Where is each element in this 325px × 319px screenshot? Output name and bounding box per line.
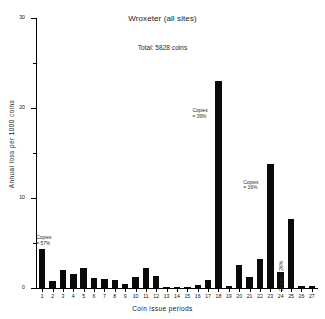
bar-period-19 <box>226 286 232 288</box>
copies-period-23-annotation: Copies = 16% <box>243 180 258 191</box>
x-tick-8 <box>115 288 116 292</box>
x-tick-26 <box>301 288 302 292</box>
bar-period-9 <box>122 284 128 288</box>
y-tick-label-0: 0 <box>3 285 25 290</box>
bar-period-12 <box>153 276 159 288</box>
x-tick-18 <box>218 288 219 292</box>
bar-period-22 <box>257 259 263 288</box>
bar-period-27 <box>309 286 315 288</box>
y-axis-title: Annual loss per 1000 coins <box>8 59 16 229</box>
x-tick-label-27: 27 <box>305 293 319 299</box>
bar-period-18 <box>215 81 221 288</box>
y-tick-label-10: 10 <box>3 195 25 200</box>
bar-period-7 <box>101 279 107 288</box>
x-tick-17 <box>208 288 209 292</box>
x-tick-16 <box>198 288 199 292</box>
bar-period-21 <box>246 277 252 288</box>
x-tick-15 <box>187 288 188 292</box>
x-tick-21 <box>250 288 251 292</box>
copies-period-24-annotation: Copies = 26% <box>280 261 286 292</box>
bar-period-16 <box>195 285 201 288</box>
x-tick-14 <box>177 288 178 292</box>
x-tick-25 <box>291 288 292 292</box>
bar-period-14 <box>174 287 180 288</box>
bars-layer <box>36 18 318 288</box>
x-tick-1 <box>42 288 43 292</box>
x-tick-7 <box>104 288 105 292</box>
x-tick-20 <box>239 288 240 292</box>
bar-period-25 <box>288 219 294 288</box>
bar-period-11 <box>143 268 149 288</box>
x-tick-19 <box>229 288 230 292</box>
bar-period-1 <box>39 249 45 288</box>
x-tick-23 <box>270 288 271 292</box>
chart-container: Wroxeter (all sites) Total: 5828 coins A… <box>0 0 325 319</box>
x-tick-4 <box>73 288 74 292</box>
x-tick-2 <box>53 288 54 292</box>
x-tick-5 <box>84 288 85 292</box>
x-tick-27 <box>312 288 313 292</box>
bar-period-3 <box>60 270 66 288</box>
bar-period-15 <box>184 287 190 288</box>
bar-period-10 <box>132 277 138 288</box>
x-tick-6 <box>94 288 95 292</box>
copies-period-1-annotation: Copies = 57% <box>36 235 51 246</box>
bar-period-2 <box>49 281 55 288</box>
bar-period-4 <box>70 274 76 288</box>
y-tick-0 <box>31 288 36 289</box>
bar-period-20 <box>236 265 242 288</box>
bar-period-8 <box>112 280 118 288</box>
x-tick-22 <box>260 288 261 292</box>
bar-period-6 <box>91 278 97 288</box>
y-tick-label-30: 30 <box>3 15 25 20</box>
x-tick-10 <box>136 288 137 292</box>
bar-period-13 <box>163 287 169 288</box>
x-tick-11 <box>146 288 147 292</box>
bar-period-26 <box>298 286 304 288</box>
x-tick-13 <box>167 288 168 292</box>
y-tick-label-20: 20 <box>3 105 25 110</box>
x-tick-3 <box>63 288 64 292</box>
bar-period-17 <box>205 280 211 288</box>
x-tick-12 <box>156 288 157 292</box>
x-axis-title: Coin issue periods <box>0 305 325 313</box>
bar-period-23 <box>267 164 273 288</box>
bar-period-5 <box>80 268 86 288</box>
x-tick-9 <box>125 288 126 292</box>
copies-period-18-annotation: Copies = 39% <box>192 108 207 119</box>
